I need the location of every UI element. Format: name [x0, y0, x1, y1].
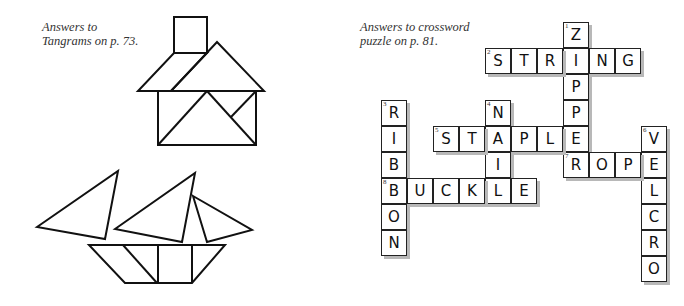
cell-letter: R [389, 104, 399, 122]
cell-letter: O [388, 208, 400, 226]
cell-letter: A [493, 130, 503, 148]
clue-number: 6 [643, 126, 647, 134]
crossword-cell: C [433, 178, 459, 204]
crossword-cell: P [563, 74, 589, 100]
cell-letter: S [441, 130, 451, 148]
tangram-house [138, 17, 264, 145]
crossword-cell: O [589, 152, 615, 178]
cell-letter: U [415, 182, 426, 200]
crossword-cell: E [563, 126, 589, 152]
crossword-cell: G [615, 48, 641, 74]
cell-letter: P [571, 78, 580, 96]
crossword-cell: K [459, 178, 485, 204]
crossword-cell: S5 [433, 126, 459, 152]
crossword-cell: O [641, 256, 667, 282]
clue-number: 4 [487, 100, 491, 108]
crossword-cell: E [511, 178, 537, 204]
cell-letter: E [519, 182, 528, 200]
crossword-cell: B8 [381, 178, 407, 204]
cell-letter: L [650, 182, 658, 200]
crossword-cell: R7 [563, 152, 589, 178]
clue-number: 3 [383, 100, 387, 108]
crossword-cell: I [563, 48, 589, 74]
cell-letter: B [389, 182, 399, 200]
cell-letter: E [571, 130, 580, 148]
cell-letter: L [546, 130, 554, 148]
cell-letter: N [596, 52, 607, 70]
crossword-cell: N4 [485, 100, 511, 126]
cell-letter: T [519, 52, 528, 70]
clue-number: 5 [435, 126, 439, 134]
crossword-cell: V6 [641, 126, 667, 152]
cell-letter: B [389, 156, 399, 174]
crossword-caption-line-1: Answers to crossword [360, 20, 470, 34]
crossword-cell: A [485, 126, 511, 152]
tangram-sailboat [37, 171, 252, 283]
cell-letter: L [494, 182, 502, 200]
tangram-figures [0, 0, 340, 306]
cell-letter: O [648, 260, 660, 278]
crossword-cell: P [511, 126, 537, 152]
cell-letter: G [622, 52, 634, 70]
crossword-cell: I [381, 126, 407, 152]
cell-letter: P [571, 104, 580, 122]
cell-letter: I [496, 156, 500, 174]
cell-letter: R [545, 52, 555, 70]
crossword-cell: R3 [381, 100, 407, 126]
clue-number: 8 [383, 178, 387, 186]
cell-letter: Z [571, 26, 581, 44]
crossword-cell: T [511, 48, 537, 74]
crossword-cell: T [459, 126, 485, 152]
crossword-cell: L [641, 178, 667, 204]
cell-letter: T [467, 130, 476, 148]
cell-letter: R [649, 234, 659, 252]
cell-letter: K [467, 182, 477, 200]
crossword-cell: N [381, 230, 407, 256]
crossword-cell: L [537, 126, 563, 152]
cell-letter: C [441, 182, 451, 200]
cell-letter: E [649, 156, 658, 174]
crossword-cell: R [641, 230, 667, 256]
crossword-cell: N [589, 48, 615, 74]
crossword-caption: Answers to crossword puzzle on p. 81. [360, 20, 470, 48]
crossword-cell: L [485, 178, 511, 204]
clue-number: 7 [565, 152, 569, 160]
cell-letter: I [392, 130, 396, 148]
crossword-cell: I [485, 152, 511, 178]
cell-letter: I [574, 52, 578, 70]
cell-letter: N [388, 234, 399, 252]
cell-letter: O [596, 156, 608, 174]
crossword-cell: C [641, 204, 667, 230]
crossword-caption-line-2: puzzle on p. 81. [360, 34, 470, 48]
crossword-cell: O [381, 204, 407, 230]
cell-letter: C [649, 208, 659, 226]
crossword-cell: S2 [485, 48, 511, 74]
cell-letter: P [519, 130, 528, 148]
clue-number: 1 [565, 22, 569, 30]
clue-number: 2 [487, 48, 491, 56]
cell-letter: R [571, 156, 581, 174]
crossword-cell: P [615, 152, 641, 178]
cell-letter: P [623, 156, 632, 174]
crossword-cell: E [641, 152, 667, 178]
crossword-cell: P [563, 100, 589, 126]
crossword-cell: U [407, 178, 433, 204]
cell-letter: S [493, 52, 503, 70]
crossword-cell: B [381, 152, 407, 178]
crossword-cell: R [537, 48, 563, 74]
crossword-cell: Z1 [563, 22, 589, 48]
cell-letter: N [492, 104, 503, 122]
cell-letter: V [649, 130, 659, 148]
